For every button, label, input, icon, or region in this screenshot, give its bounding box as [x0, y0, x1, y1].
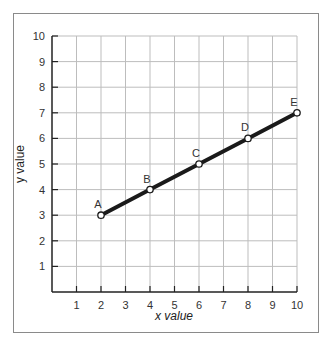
grid	[52, 36, 297, 292]
x-tick-label: 6	[196, 299, 202, 311]
data-point-marker	[98, 212, 104, 218]
x-tick-label: 2	[98, 299, 104, 311]
tick-labels: 1234567891012345678910	[33, 30, 303, 311]
x-tick-label: 4	[147, 299, 153, 311]
y-tick-label: 2	[39, 235, 45, 247]
y-tick-label: 10	[33, 30, 45, 42]
y-tick-label: 6	[39, 132, 45, 144]
data-point-label: E	[290, 96, 297, 108]
y-tick-label: 3	[39, 209, 45, 221]
data-point-marker	[294, 110, 300, 116]
data-point-label: B	[143, 173, 150, 185]
chart: 1234567891012345678910 ABCDE x value y v…	[0, 0, 331, 350]
x-tick-label: 8	[245, 299, 251, 311]
data-point-label: D	[241, 121, 249, 133]
y-tick-label: 5	[39, 158, 45, 170]
data-point-marker	[196, 161, 202, 167]
x-tick-label: 7	[220, 299, 226, 311]
y-tick-label: 4	[39, 184, 45, 196]
y-axis-title: y value	[13, 145, 27, 183]
x-axis-title: x value	[154, 309, 193, 323]
data-point-marker	[147, 186, 153, 192]
x-tick-label: 9	[269, 299, 275, 311]
y-tick-label: 1	[39, 260, 45, 272]
y-tick-label: 8	[39, 81, 45, 93]
x-tick-label: 10	[291, 299, 303, 311]
data-point-marker	[245, 135, 251, 141]
y-tick-label: 7	[39, 107, 45, 119]
y-tick-label: 9	[39, 56, 45, 68]
data-point-label: A	[94, 198, 102, 210]
x-tick-label: 3	[122, 299, 128, 311]
x-tick-label: 1	[73, 299, 79, 311]
data-point-label: C	[192, 147, 200, 159]
